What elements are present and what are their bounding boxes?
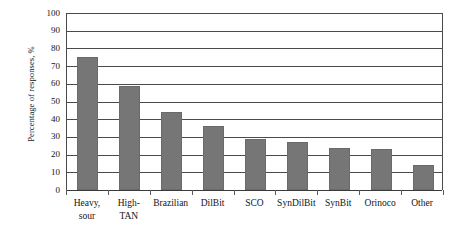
x-tick-mark (66, 190, 67, 195)
y-tick-label: 100 (30, 9, 60, 18)
x-axis-label-line1: SynBit (325, 198, 351, 208)
y-tick-label: 10 (30, 168, 60, 177)
y-tick-label: 30 (30, 132, 60, 141)
x-axis-label-line1: Orinoco (365, 198, 396, 208)
x-tick-mark (234, 190, 235, 195)
y-tick-label: 70 (30, 62, 60, 71)
x-axis-label: Other (395, 197, 449, 210)
x-axis-label-line1: Brazilian (153, 198, 188, 208)
y-tick-label: 60 (30, 79, 60, 88)
bar (161, 112, 182, 190)
x-axis-label-line1: SynDilBit (277, 198, 316, 208)
x-tick-mark (401, 190, 402, 195)
bar (77, 57, 98, 190)
bar-chart-figure: Percentage of responses, % 1009080706050… (0, 0, 462, 231)
bar (119, 86, 140, 190)
x-tick-mark (108, 190, 109, 195)
y-tick-label: 40 (30, 115, 60, 124)
bar (245, 139, 266, 190)
y-tick-label: 0 (30, 186, 60, 195)
y-tick-label: 20 (30, 150, 60, 159)
x-axis-label-line1: Other (411, 198, 433, 208)
bar (287, 142, 308, 190)
y-tick-label: 50 (30, 97, 60, 106)
x-tick-mark (150, 190, 151, 195)
x-axis-label-line1: DilBit (201, 198, 225, 208)
plot-area (66, 13, 443, 190)
x-tick-mark (317, 190, 318, 195)
y-axis-tick-labels: 1009080706050403020100 (30, 13, 60, 190)
x-axis-label-line1: SCO (245, 198, 263, 208)
x-tick-mark (359, 190, 360, 195)
bars-layer (67, 13, 442, 190)
y-tick-label: 80 (30, 44, 60, 53)
x-tick-mark (192, 190, 193, 195)
bar (371, 149, 392, 190)
x-tick-mark (275, 190, 276, 195)
y-tick-label: 90 (30, 26, 60, 35)
bar (203, 126, 224, 190)
bar (413, 165, 434, 190)
x-tick-mark (443, 190, 444, 195)
bar (329, 148, 350, 190)
x-axis-label-line1: High- (118, 198, 140, 208)
x-axis-tick-marks (66, 190, 443, 195)
x-axis-label-line1: Heavy, (74, 198, 101, 208)
x-axis-label-line2: TAN (102, 210, 156, 223)
x-axis-category-labels: Heavy,sourHigh-TANBrazilianDilBitSCOSynD… (66, 197, 443, 231)
